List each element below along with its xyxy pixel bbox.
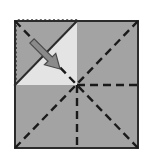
fold-diagram — [0, 0, 144, 159]
paper-folding-figure: Paper folding diagram — [0, 0, 144, 159]
